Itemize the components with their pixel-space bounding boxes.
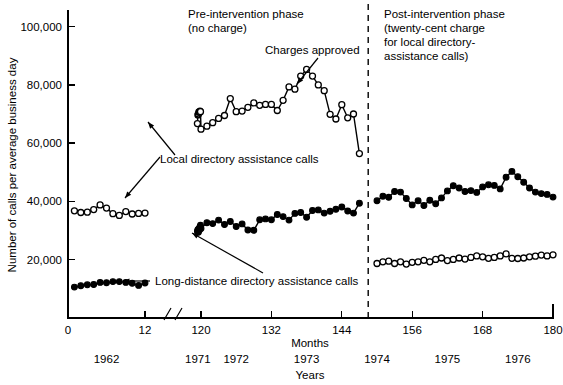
data-point-local-1974-1976 bbox=[421, 257, 427, 263]
post-intervention-phase-label: Post-intervention phase (twenty-cent cha… bbox=[384, 8, 505, 62]
data-point-local-1974-1976 bbox=[444, 258, 450, 264]
x-tick-label: 120 bbox=[191, 324, 210, 336]
data-point-longdistance-1974-1976 bbox=[480, 184, 486, 190]
data-point-longdistance-1971-1973 bbox=[333, 206, 339, 212]
year-label: 1974 bbox=[364, 353, 390, 365]
data-point-local-1974-1976 bbox=[532, 253, 538, 259]
long-distance-directory-assistance-arrowhead bbox=[192, 233, 199, 239]
data-point-local-1962 bbox=[91, 207, 97, 213]
data-point-local-1974-1976 bbox=[544, 253, 550, 259]
data-point-longdistance-1962 bbox=[104, 280, 110, 286]
data-point-longdistance-1962 bbox=[91, 282, 97, 288]
long-distance-directory-assistance-label: Long-distance directory assistance calls bbox=[155, 275, 359, 287]
data-point-local-1971-1973 bbox=[239, 108, 245, 114]
data-point-local-1971-1973 bbox=[227, 96, 233, 102]
data-point-longdistance-1974-1976 bbox=[538, 191, 544, 197]
data-point-longdistance-1971-1973 bbox=[210, 221, 216, 227]
data-point-local-1974-1976 bbox=[439, 255, 445, 261]
data-point-longdistance-1974-1976 bbox=[474, 190, 480, 196]
data-point-longdistance-1974-1976 bbox=[550, 194, 556, 200]
y-tick-label: 60,000 bbox=[27, 137, 62, 149]
data-point-local-1971-1973 bbox=[198, 126, 204, 132]
annotation-leaders bbox=[123, 58, 318, 284]
data-point-local-1962 bbox=[71, 208, 77, 214]
data-point-local-1971-1973 bbox=[286, 84, 292, 90]
data-point-local-1974-1976 bbox=[374, 261, 380, 267]
data-point-longdistance-1971-1973 bbox=[263, 216, 269, 222]
data-point-longdistance-1974-1976 bbox=[427, 197, 433, 203]
data-point-local-1971-1973 bbox=[198, 109, 204, 115]
data-point-local-1971-1973 bbox=[310, 73, 316, 79]
post-intervention-line-2: (twenty-cent charge bbox=[384, 22, 485, 34]
data-point-longdistance-1974-1976 bbox=[527, 185, 533, 191]
y-tick-label: 100,000 bbox=[20, 21, 62, 33]
data-point-longdistance-1974-1976 bbox=[403, 196, 409, 202]
data-point-local-1974-1976 bbox=[462, 256, 468, 262]
data-point-local-1971-1973 bbox=[356, 151, 362, 157]
data-point-local-1971-1973 bbox=[339, 102, 345, 108]
data-point-local-1971-1973 bbox=[280, 97, 286, 103]
data-point-local-1974-1976 bbox=[509, 255, 515, 261]
data-point-local-1962 bbox=[142, 210, 148, 216]
data-point-longdistance-1974-1976 bbox=[421, 203, 427, 209]
data-point-local-1974-1976 bbox=[392, 261, 398, 267]
data-point-local-1974-1976 bbox=[427, 259, 433, 265]
data-point-longdistance-1974-1976 bbox=[374, 198, 380, 204]
data-point-local-1962 bbox=[104, 205, 110, 211]
x-axis-title-years: Years bbox=[296, 369, 325, 381]
data-point-longdistance-1971-1973 bbox=[198, 226, 204, 232]
data-point-longdistance-1974-1976 bbox=[521, 179, 527, 185]
data-point-longdistance-1971-1973 bbox=[274, 212, 280, 218]
data-point-local-1974-1976 bbox=[550, 252, 556, 258]
data-point-local-1974-1976 bbox=[386, 258, 392, 264]
data-point-longdistance-1971-1973 bbox=[222, 222, 228, 228]
year-label: 1973 bbox=[294, 353, 320, 365]
chart-figure: 20,00040,00060,00080,000100,000012120132… bbox=[0, 0, 563, 385]
data-point-local-1974-1976 bbox=[409, 259, 415, 265]
data-point-local-1971-1973 bbox=[327, 111, 333, 117]
data-point-longdistance-1962 bbox=[97, 280, 103, 286]
data-point-local-1974-1976 bbox=[486, 255, 492, 261]
post-intervention-line-1: Post-intervention phase bbox=[384, 8, 505, 20]
data-point-longdistance-1974-1976 bbox=[509, 169, 515, 175]
data-point-longdistance-1971-1973 bbox=[351, 210, 357, 216]
data-point-longdistance-1971-1973 bbox=[227, 219, 233, 225]
year-label: 1971 bbox=[185, 353, 211, 365]
year-label: 1962 bbox=[94, 353, 120, 365]
data-point-local-1971-1973 bbox=[251, 100, 257, 106]
x-axis-title-months: Months bbox=[291, 337, 329, 349]
data-point-local-1974-1976 bbox=[450, 256, 456, 262]
data-point-longdistance-1971-1973 bbox=[280, 214, 286, 220]
data-point-longdistance-1971-1973 bbox=[315, 207, 321, 213]
data-point-local-1971-1973 bbox=[222, 113, 228, 119]
data-point-longdistance-1971-1973 bbox=[345, 208, 351, 214]
axis-labels: 20,00040,00060,00080,000100,000012120132… bbox=[20, 21, 562, 365]
data-point-local-1971-1973 bbox=[333, 116, 339, 122]
data-point-longdistance-1962 bbox=[136, 283, 142, 289]
pre-intervention-line-2: (no charge) bbox=[188, 22, 247, 34]
data-point-local-1974-1976 bbox=[474, 253, 480, 259]
data-point-longdistance-1971-1973 bbox=[216, 217, 222, 223]
data-point-longdistance-1974-1976 bbox=[462, 189, 468, 195]
data-point-local-1962 bbox=[97, 202, 103, 208]
x-tick-label: 12 bbox=[139, 324, 152, 336]
x-tick-label: 180 bbox=[543, 324, 562, 336]
data-point-local-1971-1973 bbox=[210, 120, 216, 126]
data-point-local-1974-1976 bbox=[403, 261, 409, 267]
data-point-local-1974-1976 bbox=[456, 255, 462, 261]
data-point-longdistance-1962 bbox=[110, 279, 116, 285]
data-point-local-1971-1973 bbox=[292, 86, 298, 92]
data-point-longdistance-1971-1973 bbox=[339, 204, 345, 210]
y-axis-title: Number of calls per average business day bbox=[6, 57, 18, 272]
data-point-local-1974-1976 bbox=[398, 259, 404, 265]
call-volume-line-chart: 20,00040,00060,00080,000100,000012120132… bbox=[0, 0, 563, 385]
pre-intervention-line-1: Pre-intervention phase bbox=[188, 8, 304, 20]
data-point-local-1962 bbox=[129, 211, 135, 217]
data-point-longdistance-1971-1973 bbox=[304, 214, 310, 220]
data-point-longdistance-1971-1973 bbox=[245, 227, 251, 233]
data-point-local-1974-1976 bbox=[503, 251, 509, 257]
data-series bbox=[71, 66, 556, 290]
y-tick-label: 80,000 bbox=[27, 79, 62, 91]
data-point-longdistance-1974-1976 bbox=[533, 189, 539, 195]
data-point-longdistance-1962 bbox=[78, 283, 84, 289]
